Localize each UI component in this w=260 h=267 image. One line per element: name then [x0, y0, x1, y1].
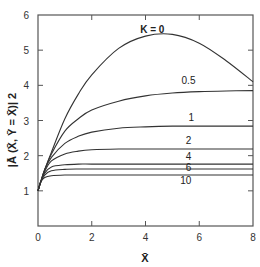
- y-tick-label: 1: [23, 186, 29, 197]
- curve-0.5: [38, 91, 253, 191]
- curve-label: 6: [186, 162, 192, 173]
- curve-label: 2: [186, 135, 192, 146]
- x-tick-label: 2: [89, 232, 95, 243]
- curve-4: [38, 164, 253, 191]
- x-tick-label: 6: [196, 232, 202, 243]
- x-axis-label: X̄: [141, 252, 149, 264]
- curve-k0: [38, 34, 253, 191]
- curve-label: 10: [180, 175, 192, 186]
- axes-box: [38, 15, 253, 226]
- curve-label: 1: [188, 112, 194, 123]
- y-tick-label: 5: [23, 45, 29, 56]
- curve-label: 0.5: [182, 75, 196, 86]
- curve-1: [38, 126, 253, 191]
- y-tick-label: 3: [23, 116, 29, 127]
- chart: 02468 123456 K = 00.5124610 X̄ |Ā (X̄, Ȳ…: [0, 0, 260, 267]
- y-tick-label: 2: [23, 151, 29, 162]
- x-tick-label: 4: [143, 232, 149, 243]
- plot-frame: [38, 15, 253, 226]
- x-tick-label: 0: [35, 232, 41, 243]
- y-tick-label: 4: [23, 80, 29, 91]
- x-axis-ticks: 02468: [35, 15, 256, 243]
- curve-6: [38, 169, 253, 191]
- curves: [38, 34, 253, 191]
- curve-label: K = 0: [140, 24, 165, 35]
- curve-10: [38, 175, 253, 191]
- y-axis-label: |Ā (X̄, Ȳ = X̄)| 2: [6, 93, 18, 167]
- curve-labels: K = 00.5124610: [140, 24, 196, 186]
- x-tick-label: 8: [250, 232, 256, 243]
- curve-label: 4: [186, 151, 192, 162]
- curve-2: [38, 149, 253, 191]
- y-tick-label: 6: [23, 10, 29, 21]
